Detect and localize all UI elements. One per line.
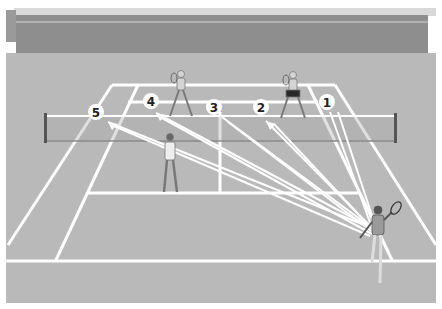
svg-text:2: 2 xyxy=(257,101,265,115)
target-3: 3 xyxy=(206,99,222,115)
target-1: 1 xyxy=(319,94,335,110)
target-4: 4 xyxy=(143,93,159,109)
stands-wall xyxy=(16,15,428,53)
svg-text:3: 3 xyxy=(210,101,218,115)
svg-text:5: 5 xyxy=(92,106,100,120)
svg-text:1: 1 xyxy=(323,96,331,110)
target-5: 5 xyxy=(88,104,104,120)
net-post-left xyxy=(44,113,47,143)
net-post-right xyxy=(394,113,397,143)
court-illustration: 1 2 3 4 5 xyxy=(0,0,442,309)
target-2: 2 xyxy=(253,99,269,115)
tennis-diagram: 1 2 3 4 5 xyxy=(0,0,442,309)
stands-crowd xyxy=(14,8,436,16)
svg-text:4: 4 xyxy=(147,95,155,109)
